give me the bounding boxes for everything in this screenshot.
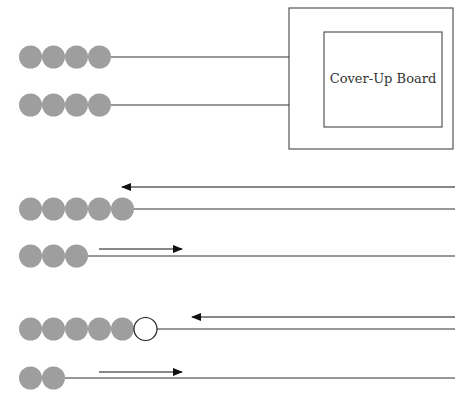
bead	[65, 318, 88, 341]
bead	[42, 198, 65, 221]
bead	[42, 318, 65, 341]
row-4	[19, 245, 455, 268]
row-6	[19, 367, 455, 390]
bead	[111, 318, 134, 341]
bead	[42, 94, 65, 117]
bead	[65, 198, 88, 221]
empty-bead	[134, 318, 157, 341]
bead	[19, 245, 42, 268]
bead	[42, 367, 65, 390]
bead	[19, 367, 42, 390]
cover-up-board-label: Cover-Up Board	[330, 71, 437, 86]
bead	[88, 198, 111, 221]
cover-up-board: Cover-Up Board	[289, 8, 453, 149]
row-2	[19, 94, 289, 117]
bead	[65, 94, 88, 117]
row-5	[19, 317, 455, 341]
bead	[19, 94, 42, 117]
bead	[88, 94, 111, 117]
bead	[65, 46, 88, 69]
bead	[19, 318, 42, 341]
row-1	[19, 46, 289, 69]
bead	[88, 318, 111, 341]
bead	[111, 198, 134, 221]
bead	[42, 46, 65, 69]
bead-rows	[19, 46, 455, 390]
bead	[19, 46, 42, 69]
bead	[88, 46, 111, 69]
bead	[65, 245, 88, 268]
row-3	[19, 187, 455, 221]
bead	[42, 245, 65, 268]
abacus-cover-up-diagram: Cover-Up Board	[0, 0, 470, 406]
bead	[19, 198, 42, 221]
